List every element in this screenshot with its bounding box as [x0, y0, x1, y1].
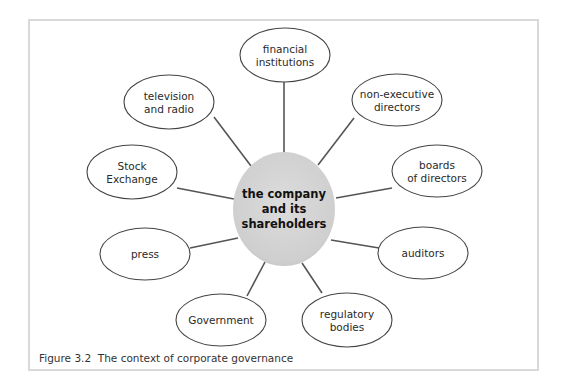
label-boards-of-directors-line-2: of directors: [407, 172, 467, 184]
node-stock-exchange: StockExchange: [87, 145, 177, 199]
label-financial-institutions-line-1: financial: [263, 43, 307, 55]
connector-non-executive-directors: [318, 118, 354, 165]
center-label-line-3: shareholders: [242, 217, 327, 231]
figure-caption: Figure 3.2 The context of corporate gove…: [39, 352, 293, 364]
node-boards-of-directors: boardsof directors: [392, 145, 482, 197]
label-auditors-line-1: auditors: [402, 247, 445, 259]
connector-stock-exchange: [177, 188, 234, 199]
node-non-executive-directors: non-executivedirectors: [352, 74, 442, 126]
label-non-executive-directors-line-1: non-executive: [360, 88, 434, 100]
label-financial-institutions-line-2: institutions: [256, 56, 314, 68]
label-stock-exchange-line-2: Exchange: [106, 173, 157, 185]
node-financial-institutions: financialinstitutions: [240, 28, 330, 82]
connector-auditors: [331, 240, 379, 248]
connector-television-and-radio: [214, 117, 251, 166]
connector-boards-of-directors: [336, 188, 392, 198]
connector-press: [190, 238, 238, 248]
label-regulatory-bodies-line-1: regulatory: [320, 308, 374, 320]
node-television-and-radio: televisionand radio: [124, 75, 214, 129]
label-stock-exchange-line-1: Stock: [117, 160, 147, 172]
label-boards-of-directors-line-1: boards: [419, 159, 455, 171]
label-non-executive-directors-line-2: directors: [374, 101, 420, 113]
label-regulatory-bodies-line-2: bodies: [330, 321, 365, 333]
node-government: Government: [176, 294, 266, 346]
label-government-line-1: Government: [188, 314, 253, 326]
label-television-and-radio-line-2: and radio: [144, 103, 194, 115]
label-press-line-1: press: [131, 248, 159, 260]
center-label-line-1: the company: [242, 187, 326, 201]
corporate-governance-diagram: the company and its shareholders financi…: [0, 0, 565, 390]
node-regulatory-bodies: regulatorybodies: [302, 293, 392, 347]
node-auditors: auditors: [378, 227, 468, 279]
node-press: press: [100, 228, 190, 280]
connector-regulatory-bodies: [302, 263, 322, 293]
connector-government: [247, 262, 265, 296]
center-node-company-and-shareholders: the company and its shareholders: [233, 152, 335, 266]
center-label-line-2: and its: [262, 202, 307, 216]
label-television-and-radio-line-1: television: [144, 90, 195, 102]
